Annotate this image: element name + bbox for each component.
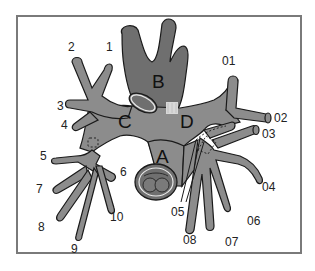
label-branch-02: 02 <box>274 111 288 125</box>
label-branch-01: 01 <box>222 54 236 68</box>
left-lower-branches <box>52 150 116 241</box>
label-branch-05: 05 <box>171 205 185 219</box>
label-branch-08: 08 <box>183 233 197 247</box>
label-branch-8: 8 <box>38 220 45 234</box>
label-branch-2: 2 <box>68 40 75 54</box>
label-a: A <box>156 146 169 167</box>
label-b: B <box>152 71 165 92</box>
label-branch-7: 7 <box>36 182 43 196</box>
label-branch-06: 06 <box>247 214 261 228</box>
diagram-canvas: B C D A 1 2 3 4 5 6 7 8 9 10 01 02 03 04… <box>0 0 315 271</box>
label-branch-4: 4 <box>61 118 68 132</box>
label-branch-6: 6 <box>120 165 127 179</box>
cartilage-patch <box>166 102 178 114</box>
label-d: D <box>180 111 194 132</box>
label-branch-5: 5 <box>40 149 47 163</box>
label-branch-1: 1 <box>106 40 113 54</box>
label-branch-04: 04 <box>262 180 276 194</box>
label-branch-9: 9 <box>71 242 78 256</box>
bronchial-tree-figure: B C D A 1 2 3 4 5 6 7 8 9 10 01 02 03 04… <box>0 0 315 271</box>
label-branch-03: 03 <box>262 127 276 141</box>
label-branch-07: 07 <box>225 235 239 249</box>
label-branch-3: 3 <box>57 99 64 113</box>
label-c: C <box>118 111 132 132</box>
label-branch-10: 10 <box>110 210 124 224</box>
